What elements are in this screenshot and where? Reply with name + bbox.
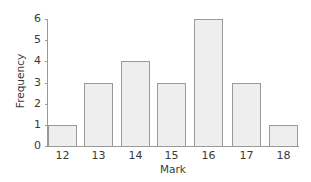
y-tick-mark <box>45 19 48 20</box>
bar-18 <box>269 125 298 147</box>
y-tick-label: 4 <box>34 55 41 66</box>
x-tick-label: 16 <box>201 150 217 161</box>
y-tick-label: 6 <box>34 13 41 24</box>
bar-13 <box>84 83 113 148</box>
bar-14 <box>121 61 150 147</box>
y-tick-label: 2 <box>34 98 41 109</box>
x-tick-label: 12 <box>55 150 71 161</box>
x-tick-label: 14 <box>128 150 144 161</box>
x-tick-label: 17 <box>239 150 255 161</box>
x-axis-label: Mark <box>155 163 191 175</box>
y-tick-mark <box>45 104 48 105</box>
x-tick-label: 18 <box>276 150 292 161</box>
y-tick-label: 0 <box>34 140 41 151</box>
bar-chart: Frequency 0123456 12131415161718 Mark <box>0 0 311 182</box>
y-tick-label: 1 <box>34 119 41 130</box>
y-axis-label: Frequency <box>14 51 26 111</box>
bar-15 <box>157 83 186 148</box>
y-tick-label: 5 <box>34 34 41 45</box>
x-tick-label: 13 <box>91 150 107 161</box>
x-tick-label: 15 <box>164 150 180 161</box>
y-tick-mark <box>45 83 48 84</box>
y-tick-label: 3 <box>34 77 41 88</box>
y-tick-mark <box>45 40 48 41</box>
bar-16 <box>194 19 223 147</box>
bar-12 <box>48 125 77 147</box>
y-tick-mark <box>45 61 48 62</box>
bar-17 <box>232 83 261 148</box>
